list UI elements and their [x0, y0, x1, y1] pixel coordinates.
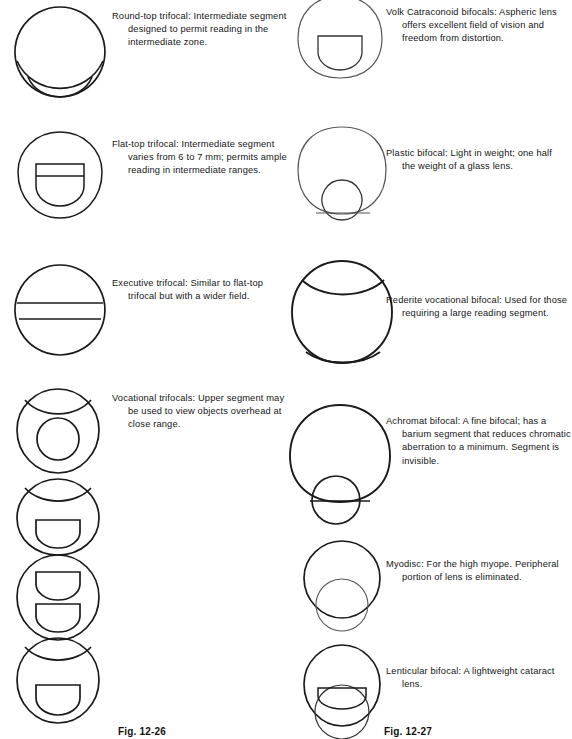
lens-diagram-vocational-trifocal-c — [12, 552, 104, 644]
lens-diagram-plastic-bifocal — [290, 122, 394, 224]
lens-diagram-executive-trifocal — [12, 262, 108, 358]
left-figure-column: Round-top trifocal: Intermediate segment… — [0, 0, 276, 739]
caption-round-top-trifocal: Round-top trifocal: Intermediate segment… — [112, 10, 288, 50]
caption-lenticular-bifocal: Lenticular bifocal: A lightweight catara… — [386, 665, 568, 691]
caption-plastic-bifocal: Plastic bifocal: Light in weight; one ha… — [386, 147, 568, 173]
lens-diagram-round-top-trifocal — [12, 4, 108, 100]
lens-diagram-vocational-trifocal-b — [12, 476, 104, 558]
caption-executive-trifocal: Executive trifocal: Similar to flat-top … — [112, 277, 288, 303]
right-figure-column: Volk Catraconoid bifocals: Aspheric lens… — [276, 0, 552, 739]
lens-diagram-volk-catraconoid-bifocal — [290, 0, 390, 90]
lens-diagram-rederite-vocational-bifocal — [286, 256, 398, 368]
caption-volk-catraconoid-bifocals: Volk Catraconoid bifocals: Aspheric lens… — [386, 6, 568, 46]
lens-diagram-achromat-bifocal — [284, 400, 396, 512]
caption-flat-top-trifocal: Flat-top trifocal: Intermediate segment … — [112, 138, 288, 178]
lens-diagram-vocational-trifocal-d — [12, 635, 104, 727]
figure-label-right: Fig. 12-27 — [384, 726, 432, 737]
figure-label-left: Fig. 12-26 — [118, 726, 166, 737]
lens-diagram-vocational-trifocal-a — [12, 386, 104, 478]
lens-diagram-myodisc — [300, 538, 384, 622]
lens-diagram-flat-top-trifocal — [12, 128, 108, 224]
lens-diagram-lenticular-bifocal — [300, 642, 384, 730]
caption-myodisc: Myodisc: For the high myope. Peripheral … — [386, 558, 568, 584]
caption-achromat-bifocal: Achromat bifocal: A fine bifocal; has a … — [386, 415, 572, 468]
caption-rederite-vocational-bifocal: Rederite vocational bifocal: Used for th… — [386, 294, 568, 320]
caption-vocational-trifocals: Vocational trifocals: Upper segment may … — [112, 392, 288, 432]
